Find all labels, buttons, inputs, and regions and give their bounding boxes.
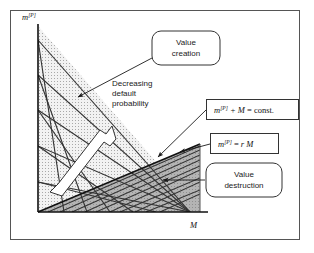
decreasing-line1: Decreasing <box>112 79 152 88</box>
decreasing-line2: default <box>112 89 137 98</box>
diagram-svg: m[P] M Value creation Value destruction … <box>0 0 314 253</box>
callout-value-destruction[interactable]: Value destruction <box>206 163 282 197</box>
figure-canvas: m[P] M Value creation Value destruction … <box>0 0 314 253</box>
formula-box-budget-line[interactable]: m[P] + M = const. <box>207 100 299 120</box>
decreasing-line3: probability <box>112 99 148 108</box>
callout-value-creation[interactable]: Value creation <box>152 31 220 65</box>
value-destruction-line1: Value <box>234 170 254 179</box>
formula-default-text: m[P] = r M <box>218 139 254 149</box>
value-destruction-line2: destruction <box>224 181 263 190</box>
value-creation-line2: creation <box>172 49 200 58</box>
value-creation-line1: Value <box>176 38 196 47</box>
formula-box-default-line[interactable]: m[P] = r M <box>211 134 279 154</box>
x-axis-label: M <box>189 220 198 230</box>
